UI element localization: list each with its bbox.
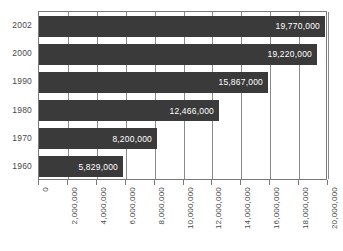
bar[interactable]: 19,770,000 xyxy=(39,16,325,37)
x-axis-tick-label: 6,000,000 xyxy=(128,187,137,224)
bar-value-label: 19,220,000 xyxy=(267,49,317,59)
x-axis-tick xyxy=(38,180,39,185)
bar[interactable]: 12,466,000 xyxy=(39,100,219,121)
x-axis-tick xyxy=(96,180,97,185)
x-axis-tick-label: 14,000,000 xyxy=(243,187,252,229)
x-axis-tick-label: 8,000,000 xyxy=(157,187,166,224)
x-axis-tick-label: 18,000,000 xyxy=(301,187,310,229)
gridline xyxy=(328,12,329,179)
y-axis-label: 1960 xyxy=(12,152,32,180)
bar-value-label: 5,829,000 xyxy=(78,162,123,172)
bar-chart: 200220001990198019701960 19,770,00019,22… xyxy=(0,0,343,251)
x-axis-tick xyxy=(154,180,155,185)
bar-value-label: 8,200,000 xyxy=(112,134,157,144)
bar-row: 15,867,000 xyxy=(39,68,326,96)
x-axis-tick xyxy=(327,180,328,185)
x-axis-tick-label: 16,000,000 xyxy=(272,187,281,229)
y-axis-category-labels: 200220001990198019701960 xyxy=(0,11,36,180)
bar[interactable]: 8,200,000 xyxy=(39,128,157,149)
x-axis-tick xyxy=(240,180,241,185)
bar[interactable]: 19,220,000 xyxy=(39,44,317,65)
x-axis-tick xyxy=(67,180,68,185)
x-axis-tick-label: 0 xyxy=(41,187,50,192)
x-axis-tick-label: 20,000,000 xyxy=(330,187,339,229)
y-axis-label: 1970 xyxy=(12,124,32,152)
x-axis-tick-label: 4,000,000 xyxy=(99,187,108,224)
bar-value-label: 15,867,000 xyxy=(218,77,268,87)
bar[interactable]: 5,829,000 xyxy=(39,156,123,177)
y-axis-label: 1990 xyxy=(12,67,32,95)
x-axis-tick xyxy=(298,180,299,185)
plot-area: 19,770,00019,220,00015,867,00012,466,000… xyxy=(38,11,327,180)
bar-value-label: 12,466,000 xyxy=(169,106,219,116)
bar-value-label: 19,770,000 xyxy=(275,21,325,31)
bar-row: 19,220,000 xyxy=(39,40,326,68)
y-axis-label: 2002 xyxy=(12,11,32,39)
x-axis-tick-label: 12,000,000 xyxy=(214,187,223,229)
chart-title xyxy=(60,0,300,2)
y-axis-label: 2000 xyxy=(12,39,32,67)
bar-rows: 19,770,00019,220,00015,867,00012,466,000… xyxy=(39,12,326,179)
bar[interactable]: 15,867,000 xyxy=(39,72,268,93)
bar-row: 5,829,000 xyxy=(39,153,326,181)
x-axis-tick xyxy=(183,180,184,185)
x-axis-tick xyxy=(211,180,212,185)
x-axis-tick-labels: 02,000,0004,000,0006,000,0008,000,00010,… xyxy=(38,187,327,249)
x-axis-tick-label: 10,000,000 xyxy=(186,187,195,229)
x-axis-tick-label: 2,000,000 xyxy=(70,187,79,224)
bar-row: 19,770,000 xyxy=(39,12,326,40)
bar-row: 12,466,000 xyxy=(39,97,326,125)
bar-row: 8,200,000 xyxy=(39,125,326,153)
x-axis-tick xyxy=(125,180,126,185)
y-axis-label: 1980 xyxy=(12,96,32,124)
x-axis-ticks xyxy=(38,180,327,186)
x-axis-tick xyxy=(269,180,270,185)
